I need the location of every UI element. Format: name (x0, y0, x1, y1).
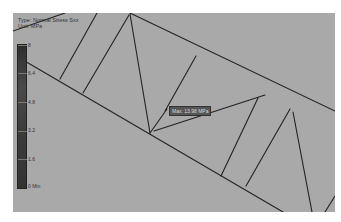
legend-tick (18, 102, 27, 103)
truss-member (130, 14, 150, 133)
legend-tick (18, 45, 27, 46)
truss-member (293, 112, 312, 212)
legend-tick (18, 159, 27, 160)
legend-tick (18, 131, 27, 132)
truss-member (325, 196, 335, 212)
fea-result-viewport[interactable]: Type: Normal Stress Sxx Unit: MPa 8 6.4 … (13, 13, 335, 212)
legend-label-min: 0 Min (28, 183, 40, 189)
truss-member (246, 109, 290, 186)
truss-member (221, 98, 258, 176)
result-unit-label: Unit: MPa (18, 23, 79, 29)
legend-label: 3.2 (28, 127, 35, 133)
legend-label: 1.6 (28, 156, 35, 162)
max-value-probe: Max: 13.98 MPa (169, 106, 211, 116)
legend-label: 6.4 (28, 70, 35, 76)
color-legend-bar (17, 44, 27, 189)
truss-member (23, 60, 283, 212)
truss-member (165, 56, 196, 111)
legend-tick (18, 73, 27, 74)
legend-label-max: 8 (28, 42, 31, 48)
result-info: Type: Normal Stress Sxx Unit: MPa (18, 17, 79, 29)
legend-label: 4.8 (28, 99, 35, 105)
truss-member (130, 13, 335, 111)
